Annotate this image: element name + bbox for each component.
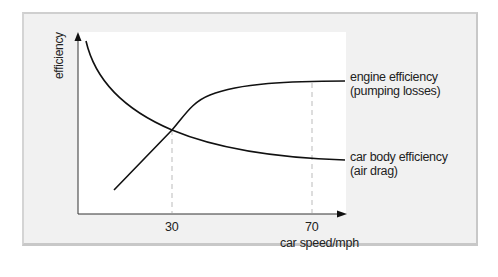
x-axis-label: car speed/mph bbox=[280, 236, 359, 250]
body-label-line1: car body efficiency bbox=[350, 150, 448, 164]
chart-svg bbox=[0, 0, 498, 277]
car-body-efficiency-curve bbox=[86, 41, 345, 160]
engine-label-line1: engine efficiency bbox=[350, 70, 438, 84]
body-label-line2: (air drag) bbox=[350, 164, 398, 178]
x-tick-30: 30 bbox=[165, 220, 178, 234]
y-axis-label: efficiency bbox=[52, 32, 66, 79]
x-axis-arrow-icon bbox=[337, 211, 347, 218]
y-axis-arrow-icon bbox=[75, 32, 82, 41]
x-tick-70: 70 bbox=[305, 220, 318, 234]
engine-label-line2: (pumping losses) bbox=[350, 84, 440, 98]
engine-efficiency-curve bbox=[114, 81, 345, 190]
